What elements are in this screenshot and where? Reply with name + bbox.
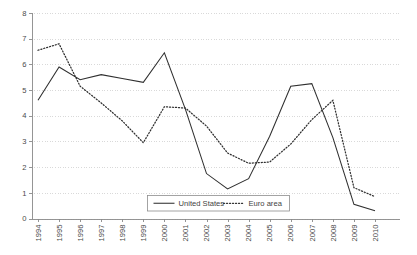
y-axis-tick-labels: 012345678 bbox=[22, 9, 26, 224]
x-axis-label-2008: 2008 bbox=[329, 225, 338, 242]
legend-label-united-states: United States bbox=[179, 199, 225, 208]
y-axis-label-6: 6 bbox=[22, 60, 26, 69]
x-axis-label-2010: 2010 bbox=[371, 225, 380, 242]
x-axis-label-2007: 2007 bbox=[308, 225, 317, 242]
series-group bbox=[38, 44, 375, 211]
y-axis-label-3: 3 bbox=[22, 137, 26, 146]
x-axis-label-1994: 1994 bbox=[34, 225, 43, 242]
gridlines-group bbox=[32, 14, 401, 220]
series-line-united-states bbox=[38, 53, 375, 211]
x-axis-label-1997: 1997 bbox=[97, 225, 106, 242]
x-axis-label-1995: 1995 bbox=[55, 225, 64, 242]
y-axis-label-7: 7 bbox=[22, 34, 26, 43]
x-axis-label-2001: 2001 bbox=[181, 225, 190, 242]
x-axis-label-2000: 2000 bbox=[160, 225, 169, 242]
legend-label-euro-area: Euro area bbox=[249, 199, 283, 208]
x-axis-label-1999: 1999 bbox=[139, 225, 148, 242]
x-axis-label-1996: 1996 bbox=[76, 225, 85, 242]
y-axis-label-4: 4 bbox=[22, 111, 26, 120]
x-axis-label-2005: 2005 bbox=[265, 225, 274, 242]
axes-group bbox=[29, 13, 400, 222]
x-axis-label-2004: 2004 bbox=[244, 225, 253, 242]
x-axis-label-2002: 2002 bbox=[202, 225, 211, 242]
x-axis-tick-labels: 1994199519961997199819992000200120022003… bbox=[34, 225, 380, 242]
x-axis-label-2003: 2003 bbox=[223, 225, 232, 242]
y-axis-label-5: 5 bbox=[22, 86, 26, 95]
x-axis-label-2009: 2009 bbox=[350, 225, 359, 242]
x-axis-label-1998: 1998 bbox=[118, 225, 127, 242]
y-axis-label-8: 8 bbox=[22, 9, 26, 18]
x-axis-label-2006: 2006 bbox=[286, 225, 295, 242]
y-axis-label-0: 0 bbox=[22, 214, 26, 223]
line-chart: 012345678 199419951996199719981999200020… bbox=[0, 0, 417, 255]
chart-container: 012345678 199419951996199719981999200020… bbox=[0, 0, 417, 255]
chart-legend: United StatesEuro area bbox=[148, 196, 290, 212]
y-axis-label-1: 1 bbox=[22, 189, 26, 198]
y-axis-label-2: 2 bbox=[22, 163, 26, 172]
